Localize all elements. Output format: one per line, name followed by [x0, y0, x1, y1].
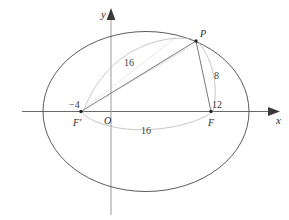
focus-left-label: F'	[72, 117, 82, 128]
length-label-p-f: 8	[214, 70, 219, 81]
x-right-value-label: 12	[212, 99, 222, 110]
length-label-fprime-p: 16	[124, 57, 134, 68]
length-label-fprime-f: 16	[141, 125, 151, 136]
segment-helper-light	[81, 48, 188, 112]
origin-label: O	[104, 115, 111, 126]
axes-group	[22, 8, 280, 215]
measurement-arcs-group	[83, 38, 215, 130]
ellipse-figure: y x O P F F' −4 12 16 8 16	[0, 0, 289, 220]
segment-p-f	[196, 41, 211, 112]
segment-fprime-p	[81, 41, 196, 112]
x-axis-label: x	[275, 114, 281, 126]
x-left-value-label: −4	[69, 99, 80, 110]
y-axis-arrow-icon	[107, 8, 116, 20]
point-p-label: P	[199, 28, 206, 39]
point-f-dot	[209, 110, 212, 113]
arc-fprime-to-p	[83, 38, 193, 113]
y-axis-label: y	[100, 8, 106, 20]
focus-right-label: F	[207, 117, 215, 128]
points-group	[79, 39, 212, 113]
segment-helper-light-2	[81, 37, 176, 112]
point-f-prime-dot	[79, 110, 82, 113]
geometry-diagram-svg: y x O P F F' −4 12 16 8 16	[0, 0, 289, 220]
segments-group	[81, 37, 211, 112]
point-p-dot	[194, 39, 197, 42]
